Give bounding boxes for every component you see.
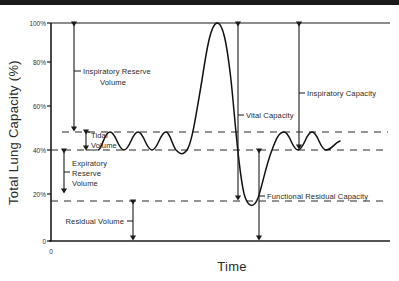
erv-label-line2: Reserve [72,169,101,178]
measure-inspiratory-reserve-volume: Inspiratory Reserve Volume [74,25,151,130]
y-tick-label-80: 80% [33,59,46,66]
erv-label-line3: Volume [72,179,98,188]
lung-volume-spirogram-figure: Total Lung Capacity (%) Time 100% 80% 60… [0,5,399,281]
tidal-label-line2: Volume [91,141,117,150]
irv-label-line2: Volume [100,78,126,87]
irv-label-line1: Inspiratory Reserve [83,67,151,76]
measure-expiratory-reserve-volume: Expiratory Reserve Volume [64,152,107,192]
erv-label-line1: Expiratory [72,159,107,168]
spirogram-curve [98,23,340,205]
x-axis-title: Time [217,259,247,274]
measure-residual-volume: Residual Volume [66,203,134,239]
y-axis-title: Total Lung Capacity (%) [6,60,21,205]
rv-label: Residual Volume [66,217,125,226]
y-tick-label-20: 20% [33,191,46,198]
y-tick-label-40: 40% [33,147,46,154]
y-tick-label-60: 60% [33,103,46,110]
measure-inspiratory-capacity: Inspiratory Capacity [299,25,376,148]
spirogram-chart: Total Lung Capacity (%) Time 100% 80% 60… [0,5,399,281]
ic-label: Inspiratory Capacity [307,89,376,98]
y-tick-label-100: 100% [29,20,46,27]
y-tick-label-0: 0 [42,238,46,245]
tidal-label-line1: Tidal [91,131,108,140]
x-origin-label: 0 [49,248,53,255]
frc-label: Functional Residual Capacity [267,192,368,201]
measure-functional-residual-capacity: Functional Residual Capacity [259,152,368,239]
measure-vital-capacity: Vital Capacity [238,25,294,199]
figure-root: Total Lung Capacity (%) Time 100% 80% 60… [0,0,399,281]
vc-label: Vital Capacity [246,111,294,120]
